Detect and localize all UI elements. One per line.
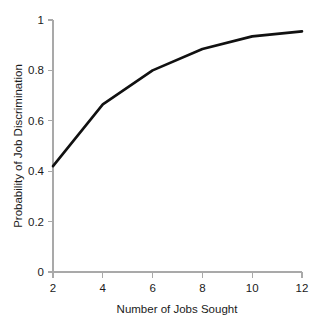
y-tick-label-4: 0.8 — [28, 64, 44, 76]
x-tick-label-1: 4 — [100, 282, 107, 294]
y-axis-title: Probability of Job Discrimination — [12, 64, 24, 228]
x-tick-label-5: 12 — [296, 282, 309, 294]
line-chart-canvas: 0 0.2 0.4 0.6 0.8 1 2 4 6 8 10 12 Number… — [0, 0, 321, 330]
data-series-line — [53, 31, 302, 166]
y-tick-label-5: 1 — [38, 14, 44, 26]
x-tick-label-0: 2 — [50, 282, 56, 294]
y-tick-label-2: 0.4 — [28, 165, 45, 177]
y-axis-ticks — [48, 20, 54, 272]
y-tick-label-3: 0.6 — [28, 115, 44, 127]
chart-figure: 0 0.2 0.4 0.6 0.8 1 2 4 6 8 10 12 Number… — [0, 0, 321, 330]
x-axis-title: Number of Jobs Sought — [117, 303, 239, 315]
x-tick-label-4: 10 — [246, 282, 259, 294]
y-tick-label-1: 0.2 — [28, 216, 44, 228]
x-axis-ticks — [53, 272, 302, 278]
y-tick-label-0: 0 — [38, 266, 44, 278]
x-tick-label-3: 8 — [199, 282, 205, 294]
x-tick-label-2: 6 — [149, 282, 155, 294]
